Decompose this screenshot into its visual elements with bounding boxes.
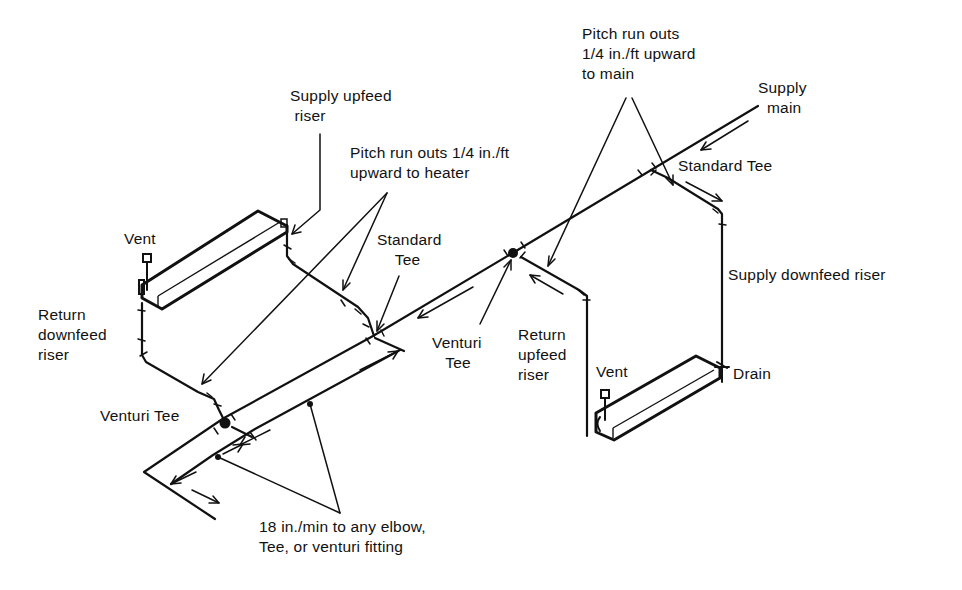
label-supply-downfeed-riser: Supply downfeed riser [728,265,886,285]
label-venturi-tee-left: Venturi Tee [100,406,179,426]
label-supply-main: Supply main [758,78,807,118]
label-return-downfeed-riser: Return downfeed riser [38,305,107,365]
venturi-tee-left-icon [220,418,231,429]
piping-diagram [0,0,962,590]
label-return-upfeed-riser: Return upfeed riser [518,325,567,385]
venturi-tee-center-icon [508,248,518,258]
label-pitch-heater: Pitch run outs 1/4 in./ft upward to heat… [350,143,509,183]
left-heater [142,211,287,309]
label-supply-upfeed-riser: Supply upfeed riser [290,86,392,126]
label-vent-left: Vent [124,229,156,249]
label-venturi-tee-center: Venturi Tee [432,333,482,373]
label-min-distance: 18 in./min to any elbow, Tee, or venturi… [259,517,426,557]
label-standard-tee-left: Standard Tee [377,230,442,270]
label-standard-tee-right: Standard Tee [678,156,772,176]
label-vent-right: Vent [596,362,628,382]
label-pitch-main: Pitch run outs 1/4 in./ft upward to main [582,24,696,84]
label-drain: Drain [733,364,771,384]
